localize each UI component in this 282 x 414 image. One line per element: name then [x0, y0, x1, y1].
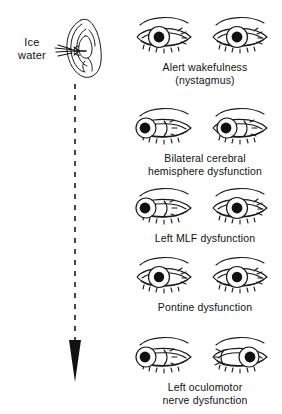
row-caption-line2: (nystagmus) — [128, 74, 282, 87]
row-caption: Pontine dysfunction — [128, 298, 282, 314]
row-caption-line2: hemisphere dysfunction — [128, 165, 282, 178]
eye-pair — [128, 12, 282, 58]
eye-pair — [128, 332, 282, 378]
left-eye-icon — [134, 183, 196, 229]
row-caption-line1: Left oculomotor — [128, 381, 282, 394]
eye-pair — [128, 103, 282, 149]
row-caption-line1: Bilateral cerebral — [128, 152, 282, 165]
row-caption: Left MLF dysfunction — [128, 229, 282, 245]
row-caption-line1: Pontine dysfunction — [128, 301, 282, 314]
down-arrow-dashed-icon — [58, 82, 94, 388]
eye-response-rows: Alert wakefulness (nystagmus) — [128, 0, 282, 414]
response-row-left-mlf-dysfunction: Left MLF dysfunction — [128, 183, 282, 245]
ice-water-label-line1: Ice — [4, 36, 60, 49]
right-eye-icon — [210, 103, 272, 149]
row-caption: Left oculomotor nerve dysfunction — [128, 378, 282, 406]
right-eye-icon — [210, 252, 272, 298]
left-eye-icon — [134, 12, 196, 58]
ice-water-label: Ice water — [4, 36, 60, 62]
left-eye-icon — [134, 103, 196, 149]
response-row-left-oculomotor-nerve-dysfunction: Left oculomotor nerve dysfunction — [128, 332, 282, 406]
response-row-pontine-dysfunction: Pontine dysfunction — [128, 252, 282, 314]
row-caption-line1: Alert wakefulness — [128, 61, 282, 74]
right-eye-icon — [210, 183, 272, 229]
ear-icon — [55, 13, 113, 83]
row-caption-line2: nerve dysfunction — [128, 394, 282, 407]
eye-pair — [128, 252, 282, 298]
response-row-bilateral-cerebral-hemisphere-dysfunction: Bilateral cerebral hemisphere dysfunctio… — [128, 103, 282, 177]
row-caption: Bilateral cerebral hemisphere dysfunctio… — [128, 149, 282, 177]
row-caption: Alert wakefulness (nystagmus) — [128, 58, 282, 86]
caloric-test-diagram: Ice water — [0, 0, 282, 414]
right-eye-icon — [210, 12, 272, 58]
row-caption-line1: Left MLF dysfunction — [128, 232, 282, 245]
response-row-alert-wakefulness: Alert wakefulness (nystagmus) — [128, 12, 282, 86]
eye-pair — [128, 183, 282, 229]
left-eye-icon — [134, 332, 196, 378]
right-eye-icon — [210, 332, 272, 378]
ice-water-label-line2: water — [4, 49, 60, 62]
left-eye-icon — [134, 252, 196, 298]
